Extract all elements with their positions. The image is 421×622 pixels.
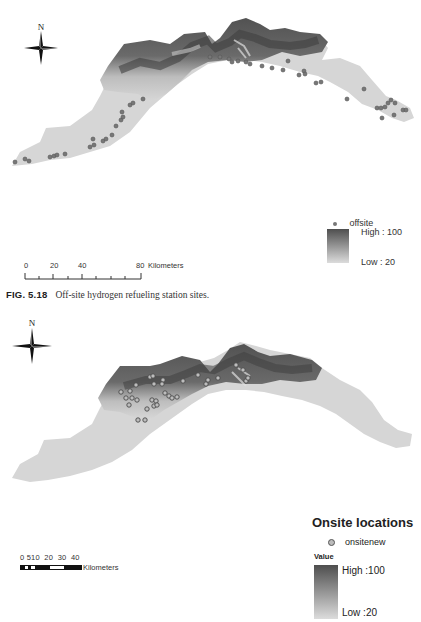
scale-tick-80: 80	[136, 261, 144, 270]
ramp-high-label: High : 100	[361, 227, 402, 237]
onsite-point-symbol	[328, 539, 335, 546]
legend-value-heading: Value	[314, 552, 334, 561]
figure-onsite-map: N	[0, 310, 421, 622]
terrain-map-liguria	[0, 0, 421, 220]
scale-tick-40: 40	[78, 261, 86, 270]
figure-caption-text: Off-site hydrogen refueling station site…	[55, 290, 209, 300]
figure-offsite-map: N	[0, 0, 421, 310]
figure-caption: FIG. 5.18Off-site hydrogen refueling sta…	[6, 289, 209, 300]
scale-bar-ruler	[20, 565, 82, 570]
scale-bar-ruler	[24, 273, 146, 281]
scale-tick-0: 0	[24, 261, 28, 270]
scale-bar-onsite: 0 510 20 30 40 Kilometers	[20, 553, 118, 572]
figure-label: FIG. 5.18	[6, 289, 47, 300]
ramp-low-label: Low :20	[342, 607, 377, 618]
value-color-ramp	[327, 229, 349, 263]
scale-unit: Kilometers	[83, 563, 118, 572]
scale-unit: Kilometers	[148, 261, 183, 270]
ramp-high-label: High :100	[342, 565, 385, 576]
legend-point-row: onsitenew	[328, 537, 386, 547]
legend-point-label: onsitenew	[345, 537, 386, 547]
value-color-ramp	[314, 565, 338, 619]
ramp-low-label: Low : 20	[361, 257, 395, 267]
legend-title: Onsite locations	[312, 515, 413, 530]
scale-tick-20: 20	[50, 261, 58, 270]
terrain-map-liguria	[0, 310, 421, 510]
scale-bar: 0 20 40 80 Kilometers	[24, 261, 184, 281]
offsite-point-symbol	[333, 222, 337, 226]
scale-tick-labels: 0 510 20 30 40	[20, 553, 118, 562]
